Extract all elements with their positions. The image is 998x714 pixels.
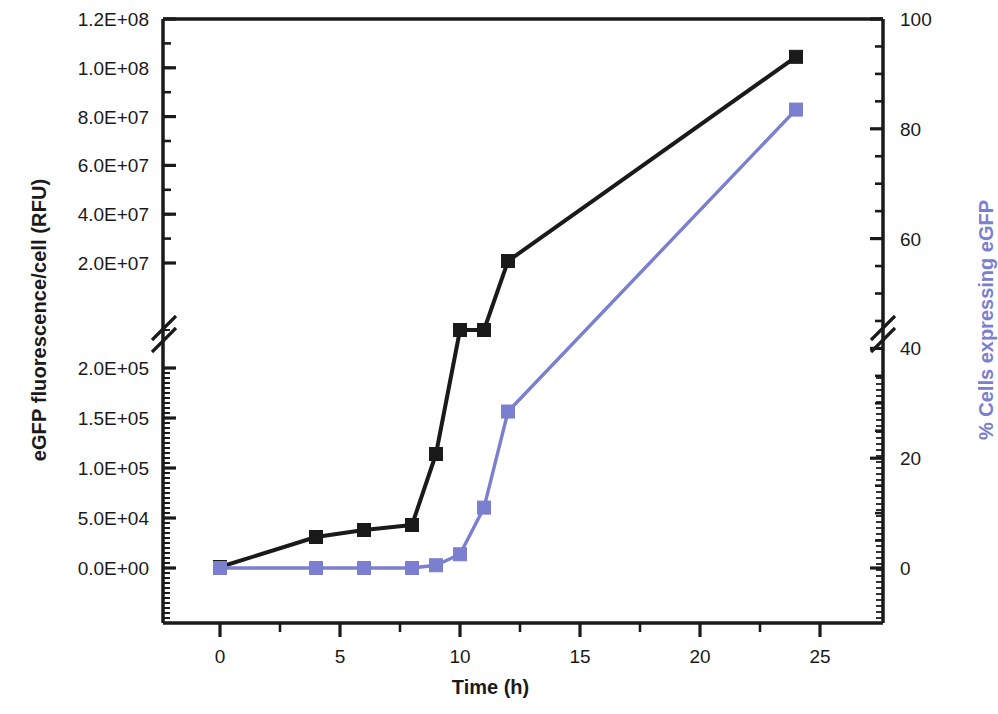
y-left-tick-label: 6.0E+07: [78, 155, 149, 176]
y-left-tick-label: 1.0E+08: [78, 58, 149, 79]
y-axis-left-tick-labels: 1.2E+081.0E+088.0E+076.0E+074.0E+072.0E+…: [78, 9, 150, 579]
y-left-tick-label: 2.0E+05: [78, 358, 149, 379]
data-point-marker: [430, 559, 443, 572]
series-line: [220, 57, 796, 567]
y-left-tick-label: 0.0E+00: [78, 558, 149, 579]
y-right-tick-label: 100: [900, 9, 932, 30]
y-right-tick-label: 60: [900, 229, 921, 250]
y-left-tick-label: 1.5E+05: [78, 408, 149, 429]
y-left-tick-label: 1.2E+08: [78, 9, 149, 30]
data-point-marker: [358, 524, 371, 537]
data-point-marker: [214, 562, 227, 575]
data-point-marker: [454, 548, 467, 561]
data-point-marker: [358, 562, 371, 575]
data-point-marker: [478, 324, 491, 337]
data-point-marker: [430, 448, 443, 461]
y-right-tick-label: 0: [900, 558, 911, 579]
data-point-marker: [502, 405, 515, 418]
y-left-tick-label: 2.0E+07: [78, 253, 149, 274]
series-line: [220, 110, 796, 568]
axis-break-marks: [152, 316, 895, 352]
x-tick-label: 15: [569, 646, 590, 667]
y-axis-right-ticks: [870, 19, 883, 618]
y-left-tick-label: 8.0E+07: [78, 107, 149, 128]
data-point-marker: [790, 103, 803, 116]
x-tick-label: 25: [809, 646, 830, 667]
data-point-marker: [790, 50, 803, 63]
x-axis-tick-labels: 0510152025: [215, 646, 831, 667]
data-point-marker: [502, 255, 515, 268]
series-egfp-fluorescence: [214, 50, 803, 573]
y-left-tick-label: 1.0E+05: [78, 458, 149, 479]
x-axis-ticks: [220, 623, 820, 637]
x-tick-label: 20: [689, 646, 710, 667]
data-series-layer: [214, 50, 803, 574]
y-right-tick-label: 40: [900, 338, 921, 359]
y-left-tick-label: 5.0E+04: [78, 508, 150, 529]
x-axis-title: Time (h): [0, 676, 981, 699]
y-axis-right-tick-labels: 100806040200: [900, 9, 932, 579]
x-tick-label: 0: [215, 646, 226, 667]
y-axis-right-title: % Cells expressing eGFP: [975, 40, 998, 600]
series-percent-cells: [214, 103, 803, 574]
data-point-marker: [406, 519, 419, 532]
y-right-tick-label: 80: [900, 119, 921, 140]
data-point-marker: [310, 562, 323, 575]
x-tick-label: 10: [449, 646, 470, 667]
x-tick-label: 5: [335, 646, 346, 667]
data-point-marker: [478, 501, 491, 514]
y-left-tick-label: 4.0E+07: [78, 204, 149, 225]
y-axis-left-title: eGFP fluorescence/cell (RFU): [28, 0, 51, 640]
data-point-marker: [406, 562, 419, 575]
axis-frame: [163, 19, 883, 623]
data-point-marker: [454, 324, 467, 337]
data-point-marker: [310, 531, 323, 544]
y-right-tick-label: 20: [900, 448, 921, 469]
